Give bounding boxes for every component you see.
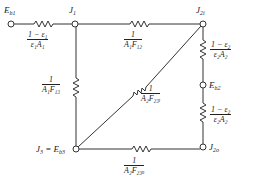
label-r-12: 1A₁F₁₂ — [124, 30, 142, 49]
wire-j2i-eb2 — [200, 27, 206, 82]
label-r-23i: 1A₂F₂₃ᵢ — [141, 84, 160, 103]
label-eb1: Eb1 — [4, 6, 16, 18]
label-r-surface1: 1 − ε₁ε₁A₁ — [27, 30, 48, 49]
label-r-surface2-bottom: 1 − ε₂ε₂A₂ — [210, 105, 231, 124]
label-r-surface2-top: 1 − ε₂ε₂A₂ — [210, 40, 231, 59]
label-eb2: Eb2 — [209, 81, 221, 93]
wire-eb2-j2o — [200, 88, 206, 144]
label-j3: J3 = Eb3 — [36, 145, 65, 157]
wire-j3-j2o — [79, 146, 200, 152]
node-eb1 — [8, 21, 14, 27]
label-r-23o: 1A₂F₂₃ₒ — [124, 156, 144, 175]
label-j1: J1 — [69, 6, 76, 18]
node-j1 — [72, 21, 78, 27]
node-j2o — [200, 144, 206, 150]
node-j2i — [200, 21, 206, 27]
node-eb2 — [200, 82, 206, 88]
label-r-13: 1A₁F₁₃ — [42, 75, 60, 94]
label-j2o: J2o — [209, 143, 219, 155]
wire-j1-j3 — [73, 27, 79, 146]
wire-j1-j2i — [78, 21, 200, 27]
label-j2i: J2i — [196, 6, 205, 18]
node-j3 — [73, 146, 79, 152]
wire-eb1-j1 — [14, 21, 72, 27]
